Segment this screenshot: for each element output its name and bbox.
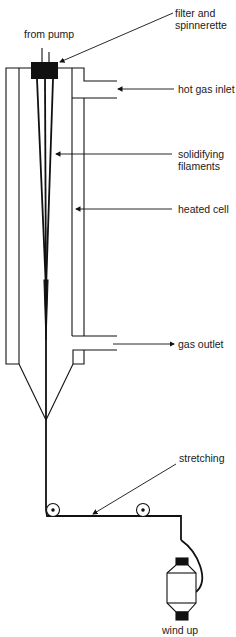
label-hot-gas-inlet: hot gas inlet xyxy=(178,83,235,95)
feed-pipes xyxy=(42,48,49,62)
label-from-pump: from pump xyxy=(24,28,74,40)
label-solidifying-line2: filaments xyxy=(178,160,220,172)
filter-spinnerette xyxy=(31,62,58,79)
wind-up-bobbin xyxy=(167,558,196,620)
diagram-canvas xyxy=(0,0,236,637)
label-wind-up: wind up xyxy=(162,624,198,636)
roller-1 xyxy=(47,504,60,517)
label-filter-line2: spinnerette xyxy=(175,19,227,31)
label-heated-cell: heated cell xyxy=(178,203,229,215)
label-gas-outlet: gas outlet xyxy=(178,338,224,350)
roller-2 xyxy=(137,504,150,517)
heated-cell-right-wall xyxy=(58,68,117,364)
label-filter-line1: filter and xyxy=(175,7,215,19)
label-stretching: stretching xyxy=(179,452,225,464)
solidifying-filaments xyxy=(37,79,53,290)
leader-filter xyxy=(60,13,173,62)
threadline xyxy=(46,290,181,540)
heated-cell-left-wall xyxy=(6,68,31,364)
leader-stretching xyxy=(93,464,176,514)
label-solidifying-line1: solidifying xyxy=(178,148,224,160)
